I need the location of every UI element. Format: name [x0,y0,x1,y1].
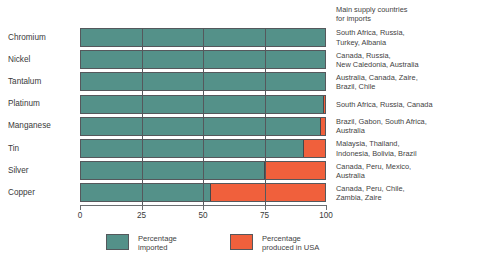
gridline-75 [265,28,266,205]
tick-mark-0 [80,206,81,210]
legend-label-imported: Percentage imported [138,234,177,253]
gridline-50 [203,28,204,205]
bar-segment-imported [81,118,320,135]
gridline-25 [142,28,143,205]
bar-segment-produced-usa [264,162,325,179]
category-label-platinum: Platinum [8,99,78,109]
category-label-chromium: Chromium [8,33,78,43]
tick-mark-75 [265,206,266,210]
bar-segment-divider [210,184,211,201]
tick-label-100: 100 [319,211,333,221]
category-label-tin: Tin [8,144,78,154]
supply-countries-tantalum: Australia, Canada, Zaire, Brazil, Chile [336,73,478,91]
category-label-nickel: Nickel [8,55,78,65]
bar-segment-imported [81,140,303,157]
supply-countries-nickel: Canada, Russia, New Caledonia, Australia [336,51,478,69]
category-label-silver: Silver [8,166,78,176]
bar-segment-divider [320,118,321,135]
category-label-copper: Copper [8,188,78,198]
bar-segment-imported [81,184,210,201]
tick-label-25: 25 [137,211,146,221]
tick-label-75: 75 [260,211,269,221]
legend-item-imported: Percentage imported [106,234,177,253]
tick-mark-100 [326,206,327,210]
supply-countries-copper: Canada, Peru, Chile, Zambia, Zaire [336,184,478,202]
bar-segment-imported [81,162,264,179]
legend-item-produced-usa: Percentage produced in USA [230,234,319,253]
bar-segment-divider [323,96,324,113]
bar-segment-produced-usa [303,140,325,157]
bar-segment-divider [303,140,304,157]
bar-segment-produced-usa [210,184,325,201]
bar-segment-imported [81,96,323,113]
tick-mark-50 [203,206,204,210]
category-label-manganese: Manganese [8,121,78,131]
category-label-tantalum: Tantalum [8,77,78,87]
tick-label-0: 0 [78,211,83,221]
supply-countries-tin: Malaysia, Thailand, Indonesia, Bolivia, … [336,139,478,157]
chart-legend: Percentage imported Percentage produced … [80,234,410,264]
legend-swatch-imported [106,234,129,250]
supply-countries-silver: Canada, Peru, Mexico, Australia [336,162,478,180]
supply-countries-manganese: Brazil, Gabon, South Africa, Australia [336,117,478,135]
supply-countries-chromium: South Africa, Russia, Turkey, Albania [336,28,478,46]
stacked-bar-chart: Main supply countries for imports 025507… [0,0,478,271]
tick-mark-25 [142,206,143,210]
legend-label-produced-usa: Percentage produced in USA [262,234,319,253]
supply-countries-header: Main supply countries for imports [336,5,478,23]
legend-swatch-produced-usa [230,234,253,250]
tick-label-50: 50 [198,211,207,221]
supply-countries-platinum: South Africa, Russia, Canada [336,100,478,109]
plot-area [80,28,326,205]
